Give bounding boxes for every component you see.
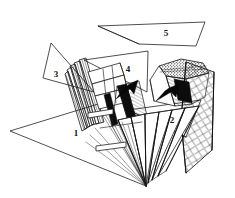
facet-label-1: 1 <box>74 128 79 138</box>
facet-label-3: 3 <box>54 69 59 79</box>
facet-label-5: 5 <box>164 28 169 38</box>
figure-container: 1 2 3 4 5 <box>0 0 235 198</box>
facet-label-4: 4 <box>126 64 131 74</box>
facet-label-2: 2 <box>170 115 175 125</box>
figure-canvas: 1 2 3 4 5 <box>0 0 235 198</box>
